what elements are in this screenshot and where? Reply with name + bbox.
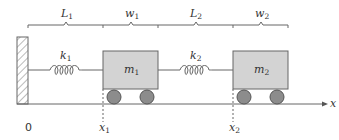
wheel-icon (107, 90, 121, 104)
brace-w1 (103, 22, 158, 28)
position-label-x1: x1 (99, 121, 110, 135)
spring-label-k2: k2 (190, 49, 202, 63)
position-label-x2: x2 (229, 121, 240, 135)
wall-icon (17, 37, 28, 104)
origin-label: 0 (25, 121, 32, 134)
dimension-label-L2: L2 (189, 7, 202, 21)
axis-arrow-icon (322, 102, 328, 107)
wheel-icon (237, 90, 251, 104)
dimension-label-L1: L1 (60, 7, 73, 21)
axis-label-x: x (330, 97, 337, 110)
brace-w2 (233, 22, 288, 28)
wheel-icon (270, 90, 284, 104)
two-mass-spring-diagram: L1 w1 L2 w2 x k1 k2 m1 m2 0 x1 x2 (0, 0, 339, 140)
dimension-label-w1: w1 (125, 7, 139, 21)
dimension-braces (28, 22, 288, 28)
wheel-icon (140, 90, 154, 104)
spring-k1 (28, 66, 103, 75)
spring-label-k1: k1 (60, 49, 71, 63)
brace-L1 (28, 22, 103, 28)
spring-k2 (158, 66, 233, 75)
dimension-label-w2: w2 (255, 7, 269, 21)
brace-L2 (158, 22, 233, 28)
